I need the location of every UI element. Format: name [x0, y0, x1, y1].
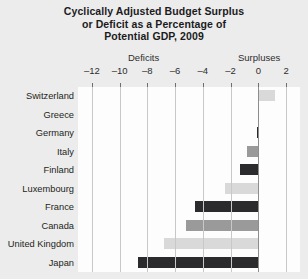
gridline--4 [203, 87, 204, 272]
x-tick-label-2: 2 [283, 65, 288, 76]
category-label-greece: Greece [0, 110, 74, 120]
category-label-japan: Japan [0, 258, 74, 268]
bar-row [78, 217, 300, 236]
surpluses-group-label: Surpluses [238, 52, 280, 63]
x-tick-label-neg8: –8 [142, 65, 153, 76]
bar-row [78, 143, 300, 162]
x-tick-label-neg4: –4 [198, 65, 209, 76]
chart-title-line-3: Potential GDP, 2009 [0, 30, 308, 43]
bar-canada [186, 220, 258, 231]
gridline--12 [92, 87, 93, 272]
x-tick-label-neg10: –10 [112, 65, 128, 76]
bar-row [78, 235, 300, 254]
x-tickmark-2 [286, 83, 287, 87]
chart-title: Cyclically Adjusted Budget Surplus or De… [0, 5, 308, 43]
x-tick-label-neg6: –6 [170, 65, 181, 76]
gridline-2 [286, 87, 287, 272]
bars-layer [78, 87, 300, 272]
gridline--8 [147, 87, 148, 272]
gridline--2 [231, 87, 232, 272]
bar-france [195, 201, 259, 212]
bar-italy [247, 146, 258, 157]
category-label-united-kingdom: United Kingdom [0, 239, 74, 249]
x-tickmark--2 [231, 83, 232, 87]
chart-container: Cyclically Adjusted Budget Surplus or De… [0, 0, 308, 279]
x-tick-label-neg2: –2 [225, 65, 236, 76]
category-label-france: France [0, 202, 74, 212]
bar-finland [240, 164, 258, 175]
bar-row [78, 87, 300, 106]
bar-japan [138, 257, 259, 268]
category-label-canada: Canada [0, 221, 74, 231]
category-label-italy: Italy [0, 147, 74, 157]
chart-title-line-2: or Deficit as a Percentage of [0, 18, 308, 31]
bar-switzerland [258, 90, 275, 101]
bar-row [78, 254, 300, 273]
bar-row [78, 180, 300, 199]
category-label-finland: Finland [0, 165, 74, 175]
category-label-germany: Germany [0, 128, 74, 138]
gridline--10 [120, 87, 121, 272]
plot-area [78, 87, 300, 272]
bar-row [78, 161, 300, 180]
chart-title-line-1: Cyclically Adjusted Budget Surplus [0, 5, 308, 18]
x-tickmark--6 [175, 83, 176, 87]
x-tickmark-0 [258, 83, 259, 87]
x-tickmark--12 [92, 83, 93, 87]
x-tickmark--4 [203, 83, 204, 87]
x-axis-tick-labels: –12–10–8–6–4–202 [0, 65, 308, 78]
x-tickmark--8 [147, 83, 148, 87]
x-tick-label-neg12: –12 [84, 65, 100, 76]
category-label-luxembourg: Luxembourg [0, 184, 74, 194]
bar-row [78, 106, 300, 125]
zero-axis-line [258, 87, 259, 272]
bar-united-kingdom [164, 238, 258, 249]
x-tick-label-0: 0 [256, 65, 261, 76]
category-label-switzerland: Switzerland [0, 91, 74, 101]
gridline--6 [175, 87, 176, 272]
x-tickmark--10 [120, 83, 121, 87]
bar-row [78, 124, 300, 143]
deficits-group-label: Deficits [128, 52, 159, 63]
y-axis-category-labels: SwitzerlandGreeceGermanyItalyFinlandLuxe… [0, 87, 74, 272]
bar-row [78, 198, 300, 217]
